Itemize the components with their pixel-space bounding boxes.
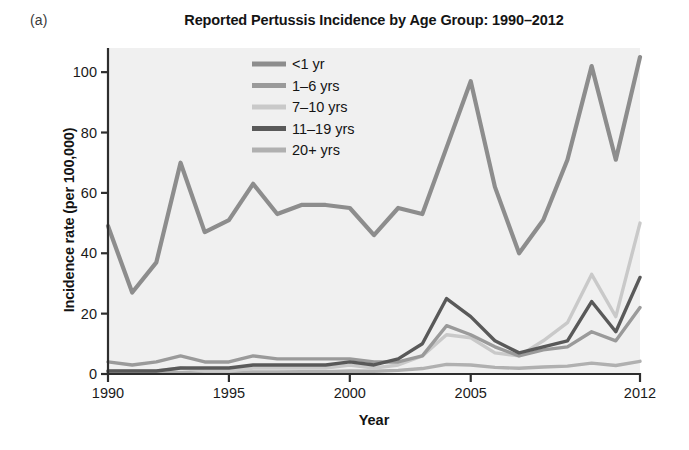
x-tick-label: 2000 [334, 385, 366, 401]
figure-panel: (a) Reported Pertussis Incidence by Age … [0, 0, 689, 450]
x-tick-label: 2005 [455, 385, 487, 401]
x-tick-label: 2012 [624, 385, 656, 401]
y-tick-label: 100 [73, 64, 97, 80]
legend-label: 20+ yrs [292, 142, 340, 158]
y-tick-label: 60 [81, 185, 97, 201]
y-tick-label: 0 [89, 366, 97, 382]
chart-plot: 02040608010019901995200020052012 <1 yr1–… [0, 0, 689, 450]
plot-background [108, 48, 640, 374]
x-tick-label: 1990 [92, 385, 124, 401]
legend-label: 1–6 yrs [292, 78, 340, 94]
legend-label: <1 yr [292, 56, 325, 72]
x-tick-label: 1995 [213, 385, 245, 401]
legend-label: 11–19 yrs [292, 121, 355, 137]
y-tick-label: 40 [81, 245, 97, 261]
y-tick-label: 20 [81, 306, 97, 322]
legend-label: 7–10 yrs [292, 99, 348, 115]
y-tick-label: 80 [81, 125, 97, 141]
